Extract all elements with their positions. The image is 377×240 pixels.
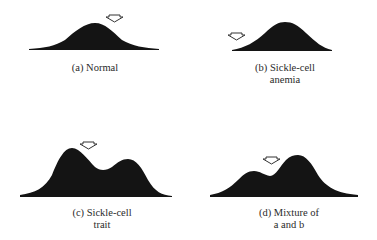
caption-a-line1: (a) Normal [54, 62, 136, 74]
panel-b [228, 22, 332, 51]
caption-c: (c) Sickle-cell trait [56, 207, 148, 231]
figure-canvas [0, 0, 377, 240]
down-arrow-outline-icon [263, 157, 280, 164]
caption-a: (a) Normal [54, 62, 136, 74]
down-arrow-outline-icon [106, 15, 123, 22]
down-arrow-outline-icon [80, 142, 97, 149]
down-arrow-outline-icon [228, 33, 245, 40]
caption-b-line1: (b) Sickle-cell [238, 62, 332, 74]
distribution-curve-a [29, 23, 159, 50]
caption-c-line2: trait [56, 219, 148, 231]
panel-a [29, 15, 159, 50]
distribution-curve-d [210, 155, 358, 197]
caption-d-line2: a and b [242, 219, 336, 231]
caption-d-line1: (d) Mixture of [242, 207, 336, 219]
panel-d [210, 155, 358, 197]
caption-c-line1: (c) Sickle-cell [56, 207, 148, 219]
panel-c [20, 142, 172, 197]
distribution-curve-b [232, 22, 332, 51]
caption-d: (d) Mixture of a and b [242, 207, 336, 231]
caption-b-line2: anemia [238, 74, 332, 86]
caption-b: (b) Sickle-cell anemia [238, 62, 332, 86]
distribution-curve-c [20, 148, 172, 197]
